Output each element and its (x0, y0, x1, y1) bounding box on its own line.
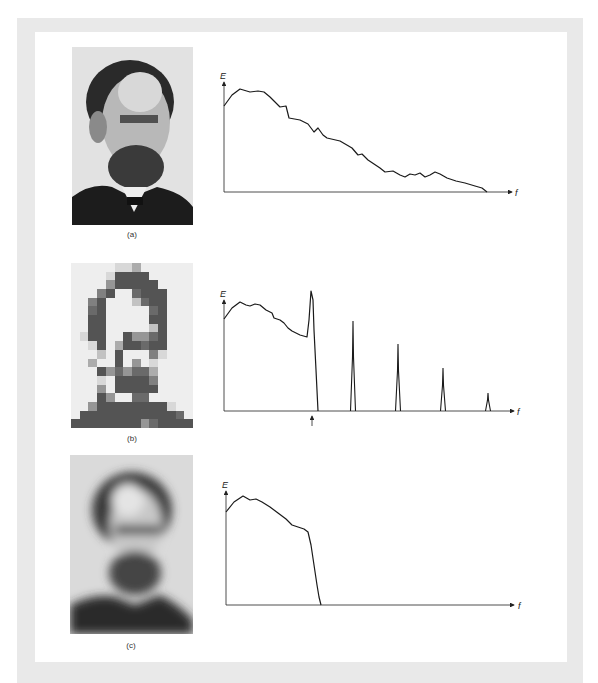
chart-b-curve (224, 291, 318, 411)
chart-b-ylabel: E (220, 289, 227, 299)
chart-b-alias-spikes (351, 321, 491, 411)
chart-a-xlabel: f (515, 188, 519, 198)
chart-c-curve (226, 496, 321, 605)
chart-c-xlabel: f (518, 601, 522, 611)
chart-a-ylabel: E (220, 71, 227, 81)
chart-b-xlabel: f (517, 407, 521, 417)
chart-c-ylabel: E (222, 480, 229, 490)
spectrum-charts: E f E f E f (0, 0, 598, 683)
chart-a-curve (224, 89, 487, 192)
